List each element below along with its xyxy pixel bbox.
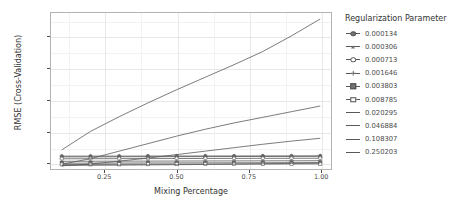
x-tick-label: 0.50 bbox=[157, 174, 197, 181]
y-axis-title: RMSE (Cross-Validation) bbox=[14, 3, 23, 163]
legend-item[interactable]: 0.108307 bbox=[345, 133, 463, 146]
legend-item[interactable]: 0.020295 bbox=[345, 106, 463, 119]
x-tick-mark bbox=[177, 170, 178, 173]
x-tick-label: 0.25 bbox=[84, 174, 124, 181]
legend-label: 0.020295 bbox=[365, 109, 397, 117]
legend-label: 0.001646 bbox=[365, 69, 397, 77]
legend-key-icon bbox=[345, 93, 361, 106]
legend-item[interactable]: 0.000306 bbox=[345, 40, 463, 53]
plot-panel bbox=[50, 12, 332, 170]
legend-label: 0.250203 bbox=[365, 148, 397, 156]
legend-key-icon bbox=[345, 67, 361, 80]
x-tick-mark bbox=[104, 170, 105, 173]
legend-label: 0.000134 bbox=[365, 30, 397, 38]
legend-label: 0.046884 bbox=[365, 122, 397, 130]
legend-item[interactable]: 0.003803 bbox=[345, 80, 463, 93]
legend-label: 0.108307 bbox=[365, 135, 397, 143]
x-tick-mark bbox=[249, 170, 250, 173]
legend-key-icon bbox=[345, 53, 361, 66]
legend-key-icon bbox=[345, 40, 361, 53]
legend-key-icon bbox=[345, 133, 361, 146]
legend-key-icon bbox=[345, 27, 361, 40]
legend-key-icon bbox=[345, 80, 361, 93]
chart-root: RMSE (Cross-Validation) 0.150.200.250.30… bbox=[0, 0, 466, 208]
legend-label: 0.000713 bbox=[365, 56, 397, 64]
legend: Regularization Parameter 0.0001340.00030… bbox=[345, 14, 463, 159]
legend-key-icon bbox=[345, 119, 361, 132]
legend-item[interactable]: 0.000134 bbox=[345, 27, 463, 40]
x-tick-label: 0.75 bbox=[229, 174, 269, 181]
x-tick-mark bbox=[321, 170, 322, 173]
legend-item[interactable]: 0.250203 bbox=[345, 146, 463, 159]
legend-item[interactable]: 0.001646 bbox=[345, 67, 463, 80]
series-point bbox=[175, 163, 178, 166]
series-point bbox=[146, 163, 149, 166]
series-point bbox=[290, 162, 293, 165]
legend-title: Regularization Parameter bbox=[345, 14, 463, 23]
legend-key-icon bbox=[345, 106, 361, 119]
legend-item[interactable]: 0.000713 bbox=[345, 53, 463, 66]
legend-label: 0.000306 bbox=[365, 43, 397, 51]
x-tick-label: 1.00 bbox=[301, 174, 341, 181]
legend-item[interactable]: 0.008785 bbox=[345, 93, 463, 106]
legend-item[interactable]: 0.046884 bbox=[345, 119, 463, 132]
legend-label: 0.008785 bbox=[365, 96, 397, 104]
legend-items: 0.0001340.0003060.0007130.0016460.003803… bbox=[345, 27, 463, 159]
x-axis-title: Mixing Percentage bbox=[50, 187, 332, 196]
series-line bbox=[62, 19, 320, 150]
series-line bbox=[62, 161, 320, 162]
plot-lines bbox=[51, 13, 331, 169]
series-line bbox=[62, 158, 320, 159]
series-line bbox=[62, 138, 320, 166]
legend-label: 0.003803 bbox=[365, 82, 397, 90]
legend-key-icon bbox=[345, 146, 361, 159]
